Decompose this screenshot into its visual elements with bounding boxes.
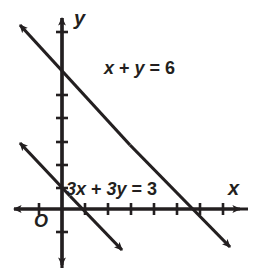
equation-2-operator-equals: = xyxy=(127,179,148,199)
line-1-arrow-upper-left xyxy=(20,25,130,145)
origin-label: O xyxy=(34,212,48,230)
line-2-arrow-lower-right xyxy=(70,196,122,250)
equation-label-line-2: 3x + 3y = 3 xyxy=(66,180,157,198)
equation-2-constant: 3 xyxy=(147,179,157,199)
graph-canvas xyxy=(0,0,254,279)
equation-1-operator-equals: = xyxy=(145,58,166,78)
x-axis-label: x xyxy=(228,178,239,198)
equation-label-line-1: x + y = 6 xyxy=(104,59,175,77)
y-axis-label: y xyxy=(74,8,85,28)
coordinate-graph-figure: y x O x + y = 6 3x + 3y = 3 xyxy=(0,0,254,279)
equation-1-constant: 6 xyxy=(165,58,175,78)
y-axis xyxy=(56,18,68,268)
equation-1-term-a: x xyxy=(104,58,114,78)
equation-2-operator-plus: + xyxy=(86,179,107,199)
equation-2-term-b: 3y xyxy=(107,179,127,199)
equation-2-term-a: 3x xyxy=(66,179,86,199)
equation-1-term-b: y xyxy=(135,58,145,78)
equation-1-operator-plus: + xyxy=(114,58,135,78)
x-axis xyxy=(14,203,248,215)
